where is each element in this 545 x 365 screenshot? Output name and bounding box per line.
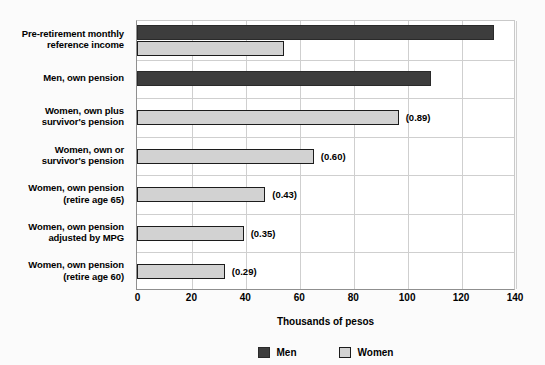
vertical-gridline	[408, 21, 409, 289]
category-label-line: survivor's pension	[0, 155, 124, 167]
category-label-line: adjusted by MPG	[0, 232, 124, 244]
bar-women	[137, 264, 225, 279]
x-tick-label: 20	[186, 292, 197, 303]
plot-area: (0.89)(0.60)(0.43)(0.35)(0.29)	[136, 20, 515, 290]
horizontal-gridline	[137, 98, 514, 99]
horizontal-gridline	[137, 252, 514, 253]
bar-women	[137, 187, 265, 202]
chart-legend: MenWomen	[136, 344, 515, 360]
category-label-column: Pre-retirement monthlyreference incomeMe…	[0, 20, 130, 290]
category-label-line: Women, own pension	[0, 182, 124, 194]
bar-women	[137, 41, 284, 56]
vertical-gridline	[354, 21, 355, 289]
bar-women	[137, 226, 244, 241]
x-axis-tick-labels: 020406080100120140	[136, 292, 515, 308]
category-label: Pre-retirement monthlyreference income	[0, 28, 124, 51]
x-tick-label: 60	[294, 292, 305, 303]
x-tick-label: 140	[507, 292, 524, 303]
horizontal-gridline	[137, 175, 514, 176]
category-label-line: Women, own or	[0, 144, 124, 156]
category-label-line: (retire age 65)	[0, 194, 124, 206]
legend-swatch-men	[258, 347, 270, 358]
category-label-line: Men, own pension	[0, 72, 124, 84]
chart-figure: Pre-retirement monthlyreference incomeMe…	[0, 0, 545, 365]
bar-value-annotation: (0.43)	[272, 187, 297, 202]
category-label: Women, own pension(retire age 60)	[0, 259, 124, 282]
category-label: Women, own pensionadjusted by MPG	[0, 221, 124, 244]
legend-item-women[interactable]: Women	[339, 347, 394, 358]
bar-value-annotation: (0.35)	[251, 226, 276, 241]
category-label: Men, own pension	[0, 72, 124, 84]
category-label-line: survivor's pension	[0, 116, 124, 128]
vertical-gridline	[516, 21, 517, 289]
category-label-line: Women, own pension	[0, 221, 124, 233]
category-label-line: Pre-retirement monthly	[0, 28, 124, 40]
category-label: Women, own plussurvivor's pension	[0, 105, 124, 128]
category-label-line: (retire age 60)	[0, 271, 124, 283]
bar-value-annotation: (0.60)	[321, 149, 346, 164]
x-tick-label: 80	[348, 292, 359, 303]
vertical-gridline	[462, 21, 463, 289]
category-label-line: reference income	[0, 39, 124, 51]
x-tick-label: 100	[399, 292, 416, 303]
x-tick-label: 120	[453, 292, 470, 303]
category-label-line: Women, own pension	[0, 259, 124, 271]
horizontal-gridline	[137, 60, 514, 61]
bar-men	[137, 71, 431, 86]
bar-women	[137, 149, 314, 164]
category-label: Women, own pension(retire age 65)	[0, 182, 124, 205]
x-tick-label: 40	[240, 292, 251, 303]
legend-label: Men	[277, 347, 297, 358]
horizontal-gridline	[137, 137, 514, 138]
x-tick-label: 0	[135, 292, 141, 303]
category-label-line: Women, own plus	[0, 105, 124, 117]
legend-item-men[interactable]: Men	[258, 347, 297, 358]
legend-label: Women	[358, 347, 394, 358]
category-label: Women, own orsurvivor's pension	[0, 144, 124, 167]
x-axis-title: Thousands of pesos	[136, 316, 515, 327]
bar-value-annotation: (0.89)	[406, 110, 431, 125]
bar-value-annotation: (0.29)	[232, 264, 257, 279]
legend-swatch-women	[339, 347, 351, 358]
bar-women	[137, 110, 399, 125]
bar-men	[137, 25, 494, 40]
horizontal-gridline	[137, 214, 514, 215]
